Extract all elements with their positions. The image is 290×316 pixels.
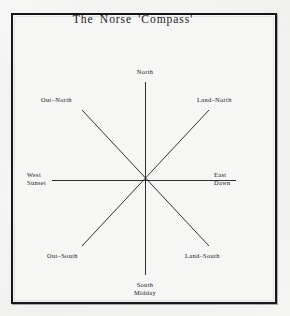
direction-label-east-subtext: Dawn bbox=[214, 179, 231, 187]
direction-label-east: East Dawn bbox=[214, 171, 231, 187]
direction-label-east-text: East bbox=[214, 171, 231, 179]
direction-label-out-north-text: Out–North bbox=[41, 96, 72, 104]
figure-title: The Norse 'Compass' bbox=[0, 13, 266, 26]
direction-label-north-text: North bbox=[137, 68, 154, 76]
direction-label-out-north: Out–North bbox=[41, 96, 72, 104]
direction-label-west: West Sunset bbox=[27, 171, 46, 187]
direction-label-out-south: Out–South bbox=[47, 252, 78, 260]
direction-label-north: North bbox=[137, 68, 154, 76]
direction-label-south: South Midday bbox=[134, 281, 156, 297]
norse-compass-figure: The Norse 'Compass' North Out–North Land… bbox=[0, 0, 290, 316]
direction-label-land-north-text: Land–North bbox=[197, 96, 232, 104]
direction-label-south-text: South bbox=[134, 281, 156, 289]
direction-label-land-north: Land–North bbox=[197, 96, 232, 104]
direction-label-land-south: Land–South bbox=[185, 252, 220, 260]
figure-frame bbox=[11, 13, 277, 304]
direction-label-south-subtext: Midday bbox=[134, 289, 156, 297]
direction-label-west-text: West bbox=[27, 171, 46, 179]
direction-label-out-south-text: Out–South bbox=[47, 252, 78, 260]
direction-label-land-south-text: Land–South bbox=[185, 252, 220, 260]
direction-label-west-subtext: Sunset bbox=[27, 179, 46, 187]
